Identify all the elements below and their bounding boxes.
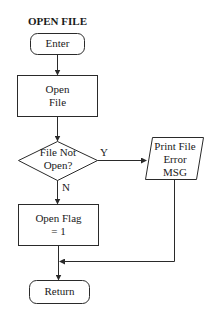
no-label: N: [60, 181, 72, 194]
print-error-label-line3: MSG: [146, 166, 204, 179]
yes-label: Y: [98, 146, 110, 159]
open-file-label-line2: File: [17, 96, 98, 109]
enter-label: Enter: [30, 37, 85, 50]
open-file-label-line1: Open: [17, 83, 98, 96]
decision-label-line2: Open?: [18, 159, 98, 172]
open-flag-label-line1: Open Flag: [18, 212, 99, 225]
print-error-label-line1: Print File: [146, 140, 204, 153]
decision-label-line1: File Not: [18, 146, 98, 159]
open-flag-label-line2: = 1: [18, 225, 99, 238]
return-label: Return: [29, 285, 90, 298]
print-error-label-line2: Error: [146, 153, 204, 166]
